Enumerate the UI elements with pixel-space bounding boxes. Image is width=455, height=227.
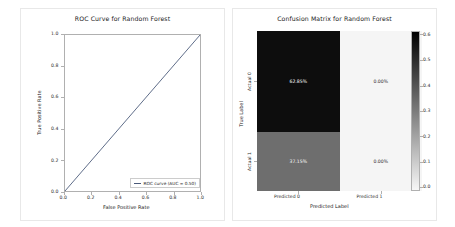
cm-ytick-actual1: Actual 1 — [247, 150, 252, 174]
roc-ytick-5: 0.0 — [51, 189, 58, 194]
roc-xtick-5: 1.0 — [197, 195, 204, 200]
colorbar-tick-mark-4 — [420, 136, 423, 137]
roc-ytick-0: 1.0 — [51, 31, 58, 36]
colorbar-tick-mark-2 — [420, 86, 423, 87]
cm-cell-value: 0.00% — [373, 159, 388, 164]
cm-cell-actual1-pred0[interactable]: 37.15% — [257, 132, 340, 191]
roc-ytick-mark-1 — [61, 66, 64, 67]
roc-ytick-1: 0.8 — [51, 63, 58, 68]
cm-cell-value: 37.15% — [289, 159, 307, 164]
colorbar-tick-3: 0.3 — [423, 108, 430, 113]
roc-xtick-2: 0.4 — [114, 195, 121, 200]
roc-xtick-mark-5 — [201, 192, 202, 195]
roc-panel-card: ROC Curve for Random Forest 1.0 0.8 0.6 … — [20, 8, 225, 221]
colorbar-tick-0: 0.6 — [423, 32, 430, 37]
colorbar-tick-mark-5 — [420, 162, 423, 163]
colorbar-tick-mark-1 — [420, 60, 423, 61]
colorbar-tick-mark-3 — [420, 111, 423, 112]
roc-yaxis-label: True Positive Rate — [36, 91, 42, 135]
roc-ytick-mark-2 — [61, 97, 64, 98]
roc-xtick-4: 0.8 — [169, 195, 176, 200]
roc-xaxis-label: False Positive Rate — [103, 204, 149, 210]
roc-chart-title: ROC Curve for Random Forest — [21, 15, 224, 22]
roc-ytick-3: 0.4 — [51, 126, 58, 131]
roc-xtick-mark-2 — [119, 192, 120, 195]
cm-ytick-mark-0 — [254, 81, 257, 82]
colorbar-tick-4: 0.2 — [423, 134, 430, 139]
roc-xtick-0: 0.0 — [60, 195, 67, 200]
cm-cell-value: 62.85% — [289, 79, 307, 84]
roc-xtick-mark-3 — [146, 192, 147, 195]
cm-xtick-pred1: Predicted 1 — [357, 194, 383, 199]
colorbar-tick-mark-0 — [420, 34, 423, 35]
roc-xtick-3: 0.6 — [142, 195, 149, 200]
roc-ytick-2: 0.6 — [51, 94, 58, 99]
colorbar-tick-6: 0.0 — [423, 184, 430, 189]
colorbar-tick-1: 0.5 — [423, 57, 430, 62]
confusion-matrix-grid: 62.85% 0.00% 37.15% 0.00% — [257, 31, 422, 191]
roc-xtick-1: 0.2 — [87, 195, 94, 200]
roc-ytick-mark-3 — [61, 129, 64, 130]
matplotlib-figure: ROC Curve for Random Forest 1.0 0.8 0.6 … — [0, 0, 455, 227]
cm-xtick-mark-1 — [381, 191, 382, 194]
colorbar-tick-5: 0.1 — [423, 159, 430, 164]
cm-cell-actual0-pred1[interactable]: 0.00% — [340, 31, 423, 132]
cm-cell-actual1-pred1[interactable]: 0.00% — [340, 132, 423, 191]
cm-yaxis-label: True Label — [238, 94, 244, 134]
colorbar-tick-mark-6 — [420, 187, 423, 188]
roc-legend-swatch — [134, 183, 141, 184]
roc-ytick-mark-0 — [61, 34, 64, 35]
roc-curve-line — [65, 35, 200, 191]
cm-cell-value: 0.00% — [373, 79, 388, 84]
roc-legend-label: ROC curve (AUC = 0.50) — [144, 181, 196, 186]
roc-ytick-4: 0.2 — [51, 158, 58, 163]
cm-ytick-mark-1 — [254, 161, 257, 162]
roc-ytick-mark-4 — [61, 160, 64, 161]
colorbar-tick-2: 0.4 — [423, 83, 430, 88]
cm-chart-title: Confusion Matrix for Random Forest — [233, 15, 436, 22]
cm-cell-actual0-pred0[interactable]: 62.85% — [257, 31, 340, 132]
cm-xtick-pred0: Predicted 0 — [274, 194, 300, 199]
cm-xtick-mark-0 — [298, 191, 299, 194]
roc-xtick-mark-0 — [64, 192, 65, 195]
confusion-matrix-panel-card: Confusion Matrix for Random Forest 62.85… — [232, 8, 437, 221]
roc-legend[interactable]: ROC curve (AUC = 0.50) — [130, 178, 200, 188]
cm-xaxis-label: Predicted Label — [310, 203, 349, 209]
cm-ytick-actual0: Actual 0 — [247, 70, 252, 94]
roc-axes-frame — [64, 34, 201, 192]
roc-xtick-mark-4 — [174, 192, 175, 195]
colorbar — [411, 31, 420, 191]
roc-xtick-mark-1 — [91, 192, 92, 195]
